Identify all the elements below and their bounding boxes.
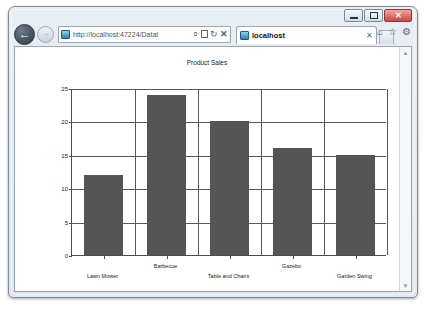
tab-title: localhost (252, 31, 366, 40)
refresh-icon[interactable]: ↻ (210, 29, 218, 39)
browser-window: ✕ ← → http://localhost:47224/Datat ⌕ ↻ ✕… (8, 6, 418, 298)
title-bar: ✕ (9, 7, 417, 23)
tab-localhost[interactable]: localhost ✕ (236, 26, 377, 44)
tools-icon[interactable]: ⚙ (402, 27, 411, 37)
gridline-vertical (261, 89, 262, 255)
minimize-icon (350, 17, 358, 19)
page-favicon-icon (61, 30, 70, 39)
x-axis-tick-mark (230, 255, 231, 259)
gridline-horizontal (72, 89, 386, 90)
y-axis-tick-label: 15 (61, 153, 68, 159)
page-viewport: Product Sales 0510152025 Lawn MowerBarbe… (14, 46, 412, 292)
y-axis-tick-label: 10 (61, 186, 68, 192)
bar-table-and-chairs (210, 121, 249, 255)
scroll-up-arrow-icon[interactable]: ▲ (400, 47, 411, 58)
y-axis-tick-mark (69, 122, 72, 123)
favorites-icon[interactable]: ☆ (388, 27, 397, 37)
stop-icon[interactable]: ✕ (220, 29, 228, 39)
tab-close-icon[interactable]: ✕ (366, 31, 373, 40)
bar-gazebo (273, 148, 312, 255)
gridline-vertical (135, 89, 136, 255)
scroll-down-arrow-icon[interactable]: ▼ (400, 280, 411, 291)
x-axis-tick-mark (104, 255, 105, 259)
x-axis-label: Garden Swing (337, 273, 372, 279)
x-axis-tick-mark (293, 255, 294, 259)
y-axis-tick-label: 20 (61, 119, 68, 125)
bar-garden-swing (336, 155, 375, 255)
vertical-scrollbar[interactable]: ▲ ▼ (399, 47, 411, 291)
chart-title: Product Sales (15, 59, 399, 66)
y-axis-tick-label: 0 (65, 253, 68, 259)
forward-button[interactable]: → (37, 26, 54, 43)
gridline-vertical (387, 89, 388, 255)
y-axis-tick-mark (69, 189, 72, 190)
gridline-vertical (198, 89, 199, 255)
address-url-text: http://localhost:47224/Datat (73, 31, 191, 38)
bar-lawn-mower (84, 175, 123, 255)
product-sales-chart: Product Sales 0510152025 Lawn MowerBarbe… (15, 47, 399, 291)
browser-toolbar-icons: ⌂ ☆ ⚙ (377, 27, 411, 37)
x-axis-label: Gazebo (282, 263, 301, 269)
back-button[interactable]: ← (14, 24, 35, 45)
tab-favicon-icon (240, 31, 249, 40)
x-axis-label: Barbecue (154, 263, 178, 269)
x-axis-label: Table and Chairs (208, 273, 249, 279)
close-button[interactable]: ✕ (384, 9, 412, 22)
x-axis-label: Lawn Mower (87, 273, 118, 279)
caption-buttons: ✕ (344, 9, 412, 22)
y-axis-tick-mark (69, 256, 72, 257)
search-icon[interactable]: ⌕ (193, 29, 198, 40)
y-axis-tick-mark (69, 223, 72, 224)
y-axis-tick-mark (69, 156, 72, 157)
bar-barbecue (147, 95, 186, 255)
y-axis-tick-mark (69, 89, 72, 90)
maximize-icon (370, 12, 378, 19)
minimize-button[interactable] (344, 9, 363, 22)
navigation-toolbar: ← → http://localhost:47224/Datat ⌕ ↻ ✕ l… (13, 23, 413, 45)
gridline-vertical (324, 89, 325, 255)
x-axis-tick-mark (356, 255, 357, 259)
x-axis-tick-mark (167, 255, 168, 259)
home-icon[interactable]: ⌂ (377, 27, 383, 37)
address-bar[interactable]: http://localhost:47224/Datat ⌕ ↻ ✕ (58, 26, 231, 43)
y-axis-tick-label: 25 (61, 86, 68, 92)
y-axis-tick-label: 5 (65, 220, 68, 226)
plot-area: 0510152025 (71, 89, 386, 256)
compatibility-view-icon[interactable] (201, 30, 208, 38)
maximize-button[interactable] (364, 9, 383, 22)
